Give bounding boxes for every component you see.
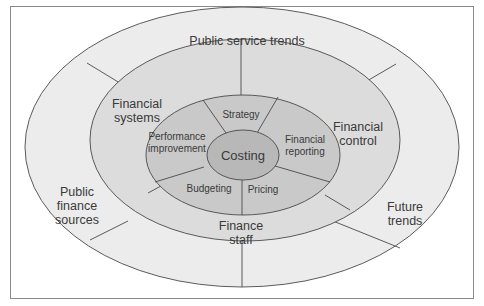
label-performance-improvement-line2: improvement [148, 143, 206, 154]
label-financial-systems-line1: Financial [112, 97, 162, 111]
concentric-diagram: Public service trends Future trends Publ… [0, 0, 484, 306]
label-financial-systems-line2: systems [114, 111, 160, 125]
label-finance-staff-line1: Finance [219, 219, 264, 233]
label-future-trends-line1: Future [387, 200, 423, 214]
label-strategy: Strategy [222, 109, 259, 120]
label-financial-control-line1: Financial [333, 120, 383, 134]
label-financial-reporting-line2: reporting [285, 146, 324, 157]
label-future-trends-line2: trends [388, 214, 423, 228]
diagram-canvas: Public service trends Future trends Publ… [0, 0, 484, 306]
label-public-service-trends: Public service trends [189, 34, 304, 48]
label-performance-improvement-line1: Performance [148, 131, 206, 142]
label-costing: Costing [221, 148, 265, 163]
label-pricing: Pricing [248, 184, 279, 195]
label-financial-reporting-line1: Financial [285, 134, 325, 145]
label-financial-control-line2: control [339, 134, 377, 148]
label-budgeting: Budgeting [186, 183, 231, 194]
label-public-finance-sources-line2: finance [57, 199, 97, 213]
label-public-finance-sources-line3: sources [55, 213, 99, 227]
label-finance-staff-line2: staff [229, 233, 253, 247]
label-public-finance-sources-line1: Public [60, 185, 94, 199]
